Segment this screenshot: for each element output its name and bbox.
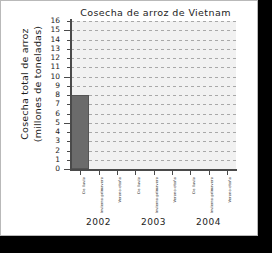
gridline	[71, 114, 236, 115]
y-axis-tick-label: 10	[46, 73, 60, 81]
y-axis-tick-label: 16	[46, 17, 60, 25]
y-axis-tick-label: 4	[46, 128, 60, 136]
y-axis-label-line2: (millones de toneladas)	[31, 9, 44, 159]
x-axis-tick-label: Verano-otoño	[228, 177, 232, 202]
y-axis-label-line1: Cosecha total de arroz	[18, 9, 31, 159]
y-axis-tick-label: 0	[46, 165, 60, 173]
y-axis-tick	[67, 95, 71, 96]
x-axis-tick	[80, 170, 81, 175]
x-axis-tick-label: Verano-otoño	[118, 177, 122, 202]
y-axis-tick-label: 15	[46, 26, 60, 34]
gridline	[71, 67, 236, 68]
gridline	[71, 151, 236, 152]
x-axis-group-label: 2004	[186, 217, 232, 227]
y-axis-tick	[64, 169, 71, 170]
y-axis-tick	[67, 86, 71, 87]
y-axis-tick	[67, 58, 71, 59]
right-black-band	[258, 0, 272, 253]
gridline	[71, 95, 236, 96]
y-axis-tick	[67, 160, 71, 161]
y-axis-tick	[67, 49, 71, 50]
x-axis-group-label: 2002	[76, 217, 122, 227]
gridline	[71, 123, 236, 124]
chart-page: Cosecha de arroz de Vietnam 012345678910…	[0, 0, 258, 236]
y-axis-tick-label: 7	[46, 100, 60, 108]
gridline	[71, 160, 236, 161]
chart-title: Cosecha de arroz de Vietnam	[63, 7, 248, 18]
y-axis-tick-label: 11	[46, 63, 60, 71]
y-axis-tick-label: 1	[46, 156, 60, 164]
y-axis-tick-label: 3	[46, 137, 60, 145]
gridline	[71, 40, 236, 41]
plot-area	[71, 21, 236, 169]
x-axis-tick	[209, 170, 210, 175]
x-axis-tick	[154, 170, 155, 175]
y-axis-label: Cosecha total de arroz (millones de tone…	[18, 9, 44, 159]
bottom-black-band	[0, 236, 272, 253]
x-axis-tick-label: De lluvia	[137, 177, 141, 194]
y-axis-tick-label: 5	[46, 119, 60, 127]
gridline	[71, 86, 236, 87]
gridline	[71, 49, 236, 50]
x-axis-tick	[135, 170, 136, 175]
y-axis-tick-label: 12	[46, 54, 60, 62]
x-axis-tick	[117, 170, 118, 175]
y-axis-tick	[67, 132, 71, 133]
x-axis-tick	[190, 170, 191, 175]
gridline	[71, 30, 236, 31]
x-axis-tick-label: Invierno-primavera	[100, 177, 104, 213]
x-axis-tick-label: De lluvia	[192, 177, 196, 194]
y-axis-tick-label: 2	[46, 147, 60, 155]
bar	[71, 95, 89, 169]
y-axis-tick	[67, 114, 71, 115]
gridline	[71, 132, 236, 133]
y-axis-tick	[64, 30, 71, 31]
y-axis-tick	[67, 141, 71, 142]
x-axis-group-label: 2003	[131, 217, 177, 227]
bar-chart: Cosecha de arroz de Vietnam 012345678910…	[1, 1, 258, 236]
y-axis-tick	[67, 21, 71, 22]
x-axis-tick-label: Verano-otoño	[173, 177, 177, 202]
y-axis-tick-label: 8	[46, 91, 60, 99]
y-axis-tick-label: 9	[46, 82, 60, 90]
gridlines	[71, 21, 236, 169]
y-axis-tick-label: 14	[46, 36, 60, 44]
x-axis-tick	[172, 170, 173, 175]
y-axis-tick	[67, 104, 71, 105]
y-axis-tick	[64, 123, 71, 124]
gridline	[71, 104, 236, 105]
gridline	[71, 77, 236, 78]
x-axis-tick-label: De lluvia	[82, 177, 86, 194]
gridline	[71, 58, 236, 59]
x-axis-tick	[227, 170, 228, 175]
gridline	[71, 141, 236, 142]
x-axis-tick	[99, 170, 100, 175]
y-axis-tick-label: 6	[46, 110, 60, 118]
y-axis-tick	[67, 40, 71, 41]
y-axis-tick	[64, 77, 71, 78]
y-axis-tick	[67, 151, 71, 152]
y-axis-tick	[67, 67, 71, 68]
y-axis-tick-label: 13	[46, 45, 60, 53]
x-axis-tick-label: Invierno-primavera	[155, 177, 159, 213]
x-axis-tick-label: Invierno-primavera	[210, 177, 214, 213]
gridline	[71, 21, 236, 22]
